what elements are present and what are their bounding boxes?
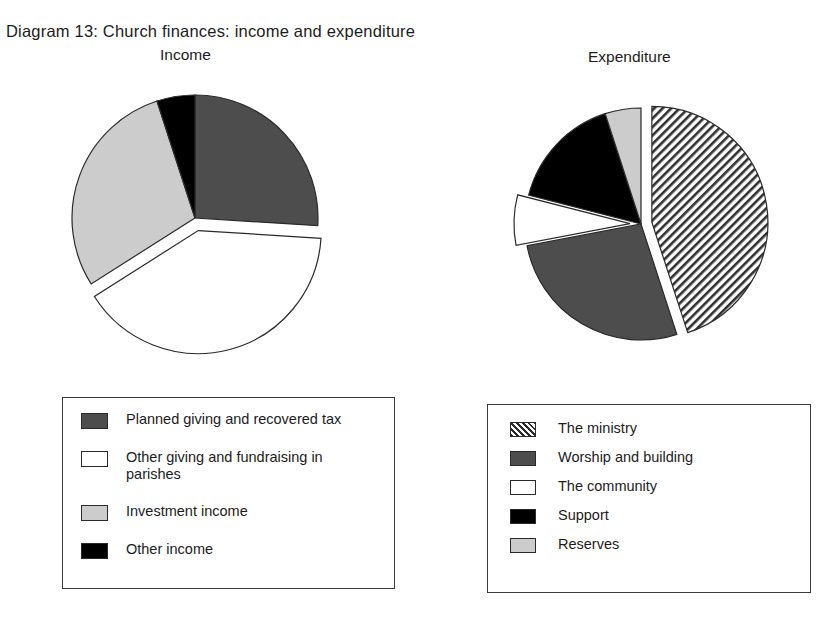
black-swatch-icon (510, 509, 536, 524)
legend-item-label: Planned giving and recovered tax (126, 411, 341, 428)
dark-gray-swatch-icon (510, 451, 536, 466)
expenditure-pie-svg (505, 86, 785, 366)
legend-item-label: Other giving and fundraising in parishes (126, 449, 376, 483)
legend-item-label: The ministry (558, 420, 637, 437)
legend-item[interactable]: The community (510, 478, 796, 495)
expenditure-pie-chart (505, 86, 785, 366)
hatched-swatch-icon (510, 422, 536, 437)
legend-item[interactable]: The ministry (510, 420, 796, 437)
income-pie-svg (55, 78, 345, 368)
legend-item[interactable]: Planned giving and recovered tax (81, 411, 380, 429)
legend-item-label: Other income (126, 541, 213, 558)
income-chart-title: Income (160, 46, 211, 64)
expenditure-chart-title: Expenditure (588, 48, 671, 66)
legend-item-label: Worship and building (558, 449, 693, 466)
legend-item[interactable]: Support (510, 507, 796, 524)
income-pie-chart (55, 78, 345, 368)
light-gray-swatch-icon (510, 538, 536, 553)
legend-item-label: Investment income (126, 503, 248, 520)
page-title: Diagram 13: Church finances: income and … (6, 22, 415, 41)
legend-item-label: Support (558, 507, 609, 524)
income-legend-list: Planned giving and recovered tax Other g… (63, 398, 394, 588)
black-swatch-icon (81, 543, 108, 559)
expenditure-legend-list: The ministry Worship and building The co… (488, 405, 810, 592)
legend-item[interactable]: Reserves (510, 536, 796, 553)
expenditure-legend: The ministry Worship and building The co… (487, 404, 811, 593)
legend-item[interactable]: Investment income (81, 503, 380, 521)
legend-item[interactable]: Other income (81, 541, 380, 559)
white-swatch-icon (510, 480, 536, 495)
legend-item-label: The community (558, 478, 657, 495)
income-legend: Planned giving and recovered tax Other g… (62, 397, 395, 589)
pie-slice[interactable] (527, 224, 677, 340)
light-gray-swatch-icon (81, 505, 108, 521)
legend-item-label: Reserves (558, 536, 619, 553)
dark-gray-swatch-icon (81, 413, 108, 429)
white-swatch-icon (81, 451, 108, 467)
legend-item[interactable]: Worship and building (510, 449, 796, 466)
pie-slice[interactable] (652, 106, 768, 332)
legend-item[interactable]: Other giving and fundraising in parishes (81, 449, 380, 483)
pie-slice[interactable] (195, 95, 318, 226)
